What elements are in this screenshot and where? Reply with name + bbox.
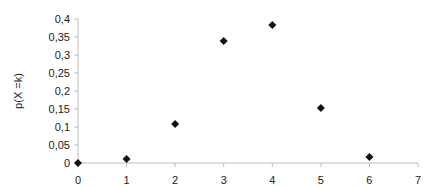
y-axis-title: p(X =k) xyxy=(12,73,24,109)
y-tick-label: 0,1 xyxy=(55,121,70,133)
x-tick-label: 4 xyxy=(269,174,275,186)
y-axis: 00,050,10,150,20,250,30,350,4 xyxy=(49,13,78,169)
y-tick-label: 0,3 xyxy=(55,49,70,61)
data-points xyxy=(74,21,373,167)
x-tick-label: 7 xyxy=(415,174,421,186)
data-point-diamond-icon xyxy=(268,21,276,29)
x-tick-label: 5 xyxy=(318,174,324,186)
data-point-diamond-icon xyxy=(317,104,325,112)
x-axis: 01234567 xyxy=(75,163,421,186)
data-point-diamond-icon xyxy=(171,120,179,128)
x-tick-label: 2 xyxy=(172,174,178,186)
y-tick-label: 0,4 xyxy=(55,13,70,25)
x-tick-label: 3 xyxy=(221,174,227,186)
y-tick-label: 0,25 xyxy=(49,67,70,79)
data-point-diamond-icon xyxy=(365,153,373,161)
data-point-diamond-icon xyxy=(220,37,228,45)
y-tick-label: 0,15 xyxy=(49,103,70,115)
x-tick-label: 0 xyxy=(75,174,81,186)
x-tick-label: 6 xyxy=(366,174,372,186)
y-tick-label: 0 xyxy=(64,157,70,169)
scatter-chart: 00,050,10,150,20,250,30,350,4 01234567 p… xyxy=(0,0,445,187)
y-tick-label: 0,05 xyxy=(49,139,70,151)
data-point-diamond-icon xyxy=(74,159,82,167)
data-point-diamond-icon xyxy=(123,155,131,163)
y-tick-label: 0,35 xyxy=(49,31,70,43)
y-tick-label: 0,2 xyxy=(55,85,70,97)
x-tick-label: 1 xyxy=(124,174,130,186)
